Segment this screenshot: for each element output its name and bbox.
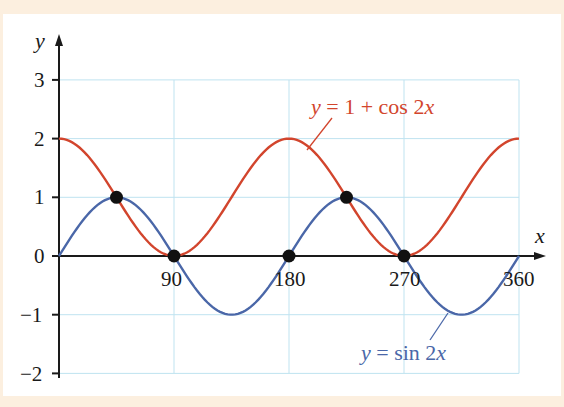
x-axis-label: x [534, 223, 545, 248]
x-tick-360: 360 [503, 267, 535, 291]
x-tick-90: 90 [161, 267, 182, 291]
axes [59, 40, 540, 378]
cos-leader-line [307, 118, 332, 150]
intersection-point [283, 250, 296, 263]
y-axis-label: y [33, 28, 45, 53]
x-tick-270: 270 [389, 267, 421, 291]
intersection-point [110, 191, 123, 204]
y-tick-0: 0 [34, 244, 45, 268]
chart: y x 3 2 1 0 −1 −2 90 180 270 360 y = 1 +… [0, 0, 564, 407]
y-tick-neg2: −2 [20, 362, 42, 386]
intersection-point [340, 191, 353, 204]
sin-series-label: y = sin 2x [359, 340, 446, 365]
intersection-point [398, 250, 411, 263]
y-tick-neg1: −1 [20, 303, 42, 327]
y-axis-arrow-icon [55, 34, 63, 46]
y-tick-1: 1 [34, 185, 45, 209]
y-tick-3: 3 [34, 68, 45, 92]
grid [59, 80, 519, 374]
y-tick-2: 2 [34, 127, 45, 151]
sin-leader-line [430, 313, 448, 340]
cos-series-label: y = 1 + cos 2x [309, 94, 434, 119]
intersection-point [168, 250, 181, 263]
x-axis-arrow-icon [534, 252, 546, 260]
y-ticks [52, 80, 59, 374]
x-tick-180: 180 [274, 267, 306, 291]
